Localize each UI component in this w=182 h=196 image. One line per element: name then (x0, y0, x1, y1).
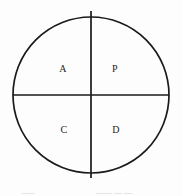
caption-strip: ___ ____ __ __ (0, 186, 182, 196)
caption-fragment-right: ____ __ __ (96, 187, 132, 195)
quadrant-label-bottom-left: C (57, 125, 71, 135)
quadrant-label-top-right: P (108, 64, 122, 74)
quadrant-label-top-left: A (56, 64, 70, 74)
quadrant-circle-diagram (0, 0, 182, 196)
figure-root: A P C D ___ ____ __ __ (0, 0, 182, 196)
quadrant-label-bottom-right: D (109, 125, 123, 135)
caption-fragment-left: ___ (22, 187, 34, 195)
